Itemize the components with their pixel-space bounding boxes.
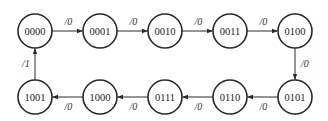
transition-label: /0 — [129, 101, 138, 112]
transition-0100-to-0101: /0 — [295, 48, 309, 80]
states: 0000000100100011010001010110011110001001 — [18, 14, 312, 114]
transition-0001-to-0010: /0 — [117, 16, 148, 31]
state-node-0011: 0011 — [213, 14, 247, 48]
state-node-0101: 0101 — [278, 80, 312, 114]
state-label: 1000 — [90, 92, 111, 103]
state-label: 0111 — [155, 92, 175, 103]
transition-0110-to-0111: /0 — [183, 97, 214, 112]
transition-label: /0 — [259, 16, 268, 27]
transition-0010-to-0011: /0 — [182, 16, 213, 31]
state-label: 1001 — [25, 92, 46, 103]
state-node-0111: 0111 — [148, 80, 182, 114]
state-label: 0001 — [90, 26, 111, 37]
transition-1000-to-1001: /0 — [53, 97, 84, 112]
state-node-0010: 0010 — [148, 14, 182, 48]
state-label: 0110 — [220, 92, 241, 103]
transition-0011-to-0100: /0 — [247, 16, 278, 31]
state-label: 0000 — [25, 26, 46, 37]
transition-0101-to-0110: /0 — [248, 97, 279, 112]
state-node-0001: 0001 — [83, 14, 117, 48]
transition-label: /0 — [129, 16, 138, 27]
transition-label: /0 — [64, 101, 73, 112]
state-node-1000: 1000 — [83, 80, 117, 114]
transition-label: /0 — [259, 101, 268, 112]
transition-1001-to-0000: /1 — [21, 49, 35, 81]
state-node-1001: 1001 — [18, 80, 52, 114]
transition-label: /1 — [21, 58, 30, 69]
transition-label: /0 — [194, 16, 203, 27]
state-node-0110: 0110 — [213, 80, 247, 114]
transition-label: /0 — [194, 101, 203, 112]
transition-0000-to-0001: /0 — [52, 16, 83, 31]
state-label: 0100 — [285, 26, 306, 37]
state-label: 0011 — [220, 26, 241, 37]
transition-label: /0 — [300, 58, 309, 69]
state-label: 0101 — [285, 92, 306, 103]
state-diagram: /0/0/0/0/0/0/0/0/0/1 0000000100100011010… — [0, 0, 328, 121]
state-node-0000: 0000 — [18, 14, 52, 48]
state-label: 0010 — [155, 26, 176, 37]
transition-0111-to-1000: /0 — [118, 97, 149, 112]
state-node-0100: 0100 — [278, 14, 312, 48]
transition-label: /0 — [64, 16, 73, 27]
